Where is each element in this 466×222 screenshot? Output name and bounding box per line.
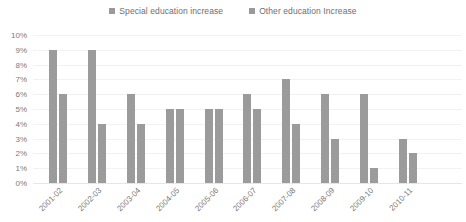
bar: [205, 109, 213, 183]
legend-swatch-special-icon: [109, 8, 115, 14]
bar-chart: Special education increase Other educati…: [0, 0, 466, 222]
x-axis-tick-label: 2002-03: [76, 186, 103, 213]
x-axis-tick-label: 2009-10: [348, 186, 375, 213]
y-axis-tick-label: 10%: [11, 31, 27, 40]
legend-entry-special: Special education increase: [109, 6, 223, 16]
y-axis-tick-label: 2%: [15, 149, 27, 158]
y-axis-tick-label: 8%: [15, 60, 27, 69]
bar: [253, 109, 261, 183]
bar: [98, 124, 106, 183]
x-axis-tick-label: 2001-02: [38, 186, 65, 213]
bar: [88, 50, 96, 183]
bar: [127, 94, 135, 183]
bar: [243, 94, 251, 183]
bar-group: [194, 35, 233, 183]
bar-group: [311, 35, 350, 183]
bar: [321, 94, 329, 183]
y-axis-tick-label: 1%: [15, 164, 27, 173]
x-axis-tick-label: 2010-11: [387, 186, 414, 213]
plot-area: [33, 35, 462, 183]
x-axis-tick-label: 2004-05: [154, 186, 181, 213]
x-axis-tick-label: 2003-04: [115, 186, 142, 213]
y-axis-tick-label: 7%: [15, 75, 27, 84]
bar: [360, 94, 368, 183]
y-axis-tick-label: 4%: [15, 119, 27, 128]
y-axis-tick-label: 6%: [15, 90, 27, 99]
bar-group: [272, 35, 311, 183]
x-axis-tick-label: 2007-08: [270, 186, 297, 213]
y-axis-tick-label: 0%: [15, 179, 27, 188]
bar-group: [233, 35, 272, 183]
bar-group: [39, 35, 78, 183]
x-axis-tick-label: 2005-06: [193, 186, 220, 213]
y-axis-tick-label: 5%: [15, 105, 27, 114]
bars-layer: [33, 35, 462, 183]
bar: [49, 50, 57, 183]
bar: [215, 109, 223, 183]
bar: [137, 124, 145, 183]
bar: [292, 124, 300, 183]
bar-group: [117, 35, 156, 183]
bar: [59, 94, 67, 183]
x-axis-tick-label: 2008-09: [309, 186, 336, 213]
legend-label-other: Other education Increase: [259, 6, 357, 16]
bar: [166, 109, 174, 183]
x-axis-tick-label: 2006-07: [232, 186, 259, 213]
bar: [399, 139, 407, 183]
y-axis-tick-label: 3%: [15, 134, 27, 143]
bar: [176, 109, 184, 183]
y-axis-tick-label: 9%: [15, 45, 27, 54]
bar-group: [349, 35, 388, 183]
bar-group: [155, 35, 194, 183]
y-axis: 10%9%8%7%6%5%4%3%2%1%0%: [0, 35, 30, 183]
legend-entry-other: Other education Increase: [249, 6, 357, 16]
chart-legend: Special education increase Other educati…: [0, 6, 466, 16]
bar-group: [388, 35, 427, 183]
x-axis: 2001-022002-032003-042004-052005-062006-…: [33, 184, 462, 222]
legend-swatch-other-icon: [249, 8, 255, 14]
legend-label-special: Special education increase: [119, 6, 223, 16]
bar-group: [78, 35, 117, 183]
bar: [282, 79, 290, 183]
